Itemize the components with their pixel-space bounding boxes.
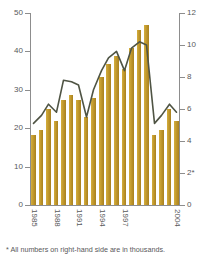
- y-axis-right-tick-label: 10: [187, 41, 196, 49]
- y-axis-left-tick: [25, 128, 30, 129]
- y-axis-left-tick-label: 40: [14, 47, 23, 55]
- x-axis-tick-label: 1997: [121, 209, 129, 227]
- y-axis-left-tick: [25, 90, 30, 91]
- y-axis-right-tick: [180, 141, 185, 142]
- y-axis-left-tick: [25, 205, 30, 206]
- y-axis-right-tick-label: 8: [187, 73, 191, 81]
- y-axis-left-tick-label: 20: [14, 124, 23, 132]
- y-axis-left-tick-label: 50: [14, 9, 23, 17]
- x-axis-tick-label: 1991: [75, 209, 83, 227]
- y-axis-left-tick: [25, 167, 30, 168]
- chart-figure: 01020304050 02*4681012 19851988199119941…: [0, 0, 209, 262]
- y-axis-left-line: [30, 13, 31, 206]
- y-axis-left-tick-label: 0: [19, 201, 23, 209]
- y-axis-left-tick: [25, 13, 30, 14]
- y-axis-right-tick-label: 12: [187, 9, 196, 17]
- y-axis-right-tick: [180, 77, 185, 78]
- y-axis-left-tick-label: 10: [14, 163, 23, 171]
- y-axis-left-tick: [25, 51, 30, 52]
- y-axis-right-tick-label: 4: [187, 137, 191, 145]
- x-axis-tick-label: 1985: [30, 209, 38, 227]
- y-axis-right-tick: [180, 205, 185, 206]
- y-axis-right-tick: [180, 45, 185, 46]
- y-axis-right-tick-label: 0: [187, 201, 191, 209]
- line-path: [34, 42, 177, 124]
- x-axis-line: [30, 205, 180, 206]
- y-axis-right-tick-label: 2*: [187, 169, 195, 177]
- footnote: * All numbers on right-hand side are in …: [6, 245, 206, 254]
- plot-area: [31, 13, 179, 205]
- line-series: [31, 13, 179, 205]
- x-axis-tick-label: 1994: [98, 209, 106, 227]
- y-axis-right-tick: [180, 173, 185, 174]
- y-axis-left-tick-label: 30: [14, 86, 23, 94]
- x-axis-tick-label: 1988: [53, 209, 61, 227]
- y-axis-right-tick-label: 6: [187, 105, 191, 113]
- y-axis-right-tick: [180, 109, 185, 110]
- y-axis-right-tick: [180, 13, 185, 14]
- x-axis-tick-label: 2004: [173, 209, 181, 227]
